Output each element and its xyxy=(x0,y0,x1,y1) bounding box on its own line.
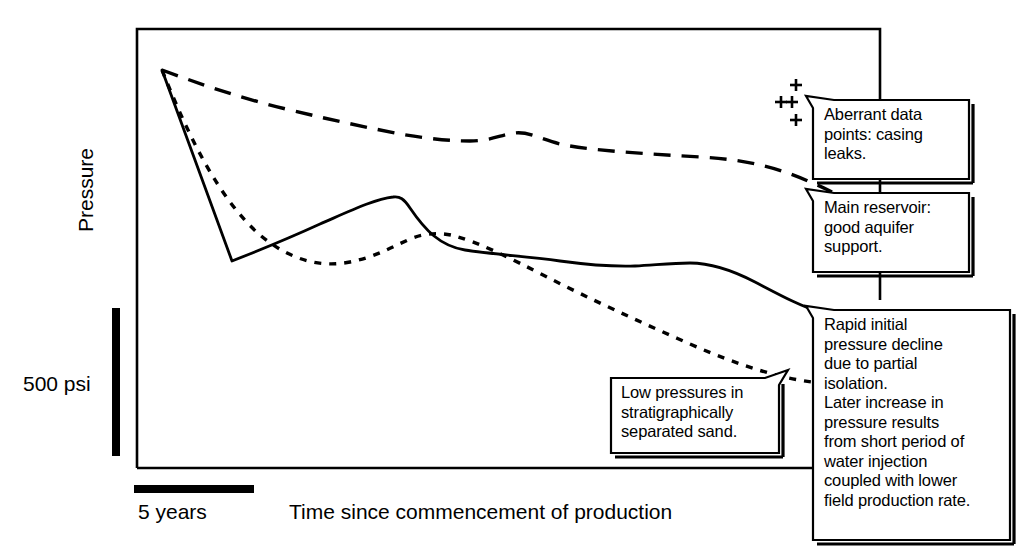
y-scalebar-label: 500 psi xyxy=(23,372,91,396)
x-scalebar xyxy=(134,485,254,493)
x-scalebar-label: 5 years xyxy=(138,500,207,524)
callout-aberrant-label: Aberrant data points: casing leaks. xyxy=(824,105,966,164)
x-axis-label: Time since commencement of production xyxy=(289,500,672,524)
plus-marker-1 xyxy=(790,79,802,91)
figure-canvas: Pressure 500 psi 5 years Time since comm… xyxy=(0,0,1026,548)
y-axis-label: Pressure xyxy=(74,172,98,232)
aberrant-data-points xyxy=(775,79,802,126)
series-dotted-curve xyxy=(162,70,812,382)
callout-low-pressures-label: Low pressures in stratigraphically separ… xyxy=(621,383,781,442)
plus-marker-2 xyxy=(775,96,787,108)
plus-marker-4 xyxy=(790,114,802,126)
series-dashed-curve xyxy=(162,70,832,192)
y-scalebar xyxy=(112,308,120,456)
callout-main-reservoir-label: Main reservoir: good aquifer support. xyxy=(824,198,972,257)
callout-rapid-decline-label: Rapid initial pressure decline due to pa… xyxy=(824,315,1014,510)
series-solid-curve xyxy=(162,70,820,312)
plus-marker-3 xyxy=(786,96,798,108)
